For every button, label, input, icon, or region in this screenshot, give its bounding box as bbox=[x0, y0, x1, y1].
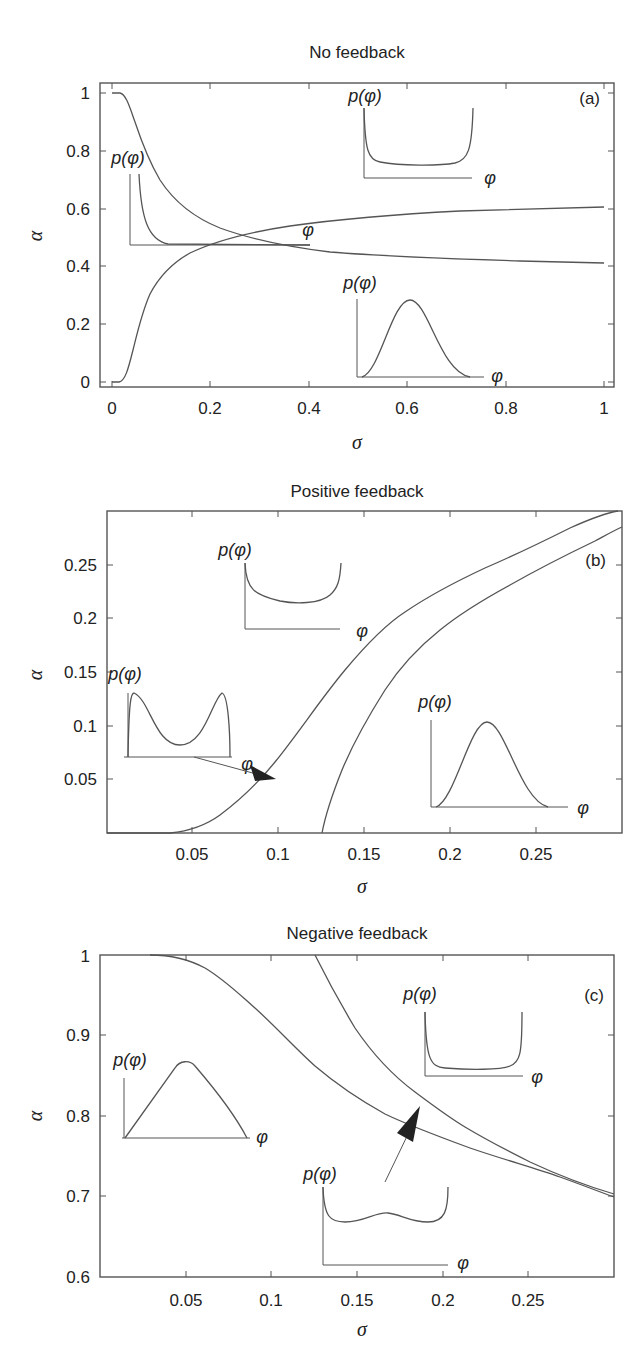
panel-b-ticks bbox=[107, 511, 622, 833]
panel-b-inset-u: p(φ) φ bbox=[217, 540, 368, 641]
panel-c-ylabel: α bbox=[24, 1110, 46, 1121]
panel-a-xlabel: σ bbox=[352, 431, 363, 453]
panel-b-right-curve bbox=[322, 527, 622, 833]
panel-c-inset-u: p(φ) φ bbox=[402, 984, 543, 1087]
panel-c-lower-curve bbox=[150, 955, 614, 1197]
panel-c-title: Negative feedback bbox=[287, 924, 428, 943]
svg-text:1: 1 bbox=[81, 84, 90, 103]
svg-text:0.6: 0.6 bbox=[395, 399, 419, 418]
panel-b-arrowhead-icon bbox=[250, 765, 276, 781]
panel-c-xlabel: σ bbox=[357, 1318, 368, 1340]
svg-text:φ: φ bbox=[491, 366, 503, 386]
panel-c-y-tick-labels: 0.6 0.7 0.8 0.9 1 bbox=[66, 947, 90, 1287]
panel-a-x-tick-labels: 0 0.2 0.4 0.6 0.8 1 bbox=[107, 399, 608, 418]
svg-text:p(φ): p(φ) bbox=[342, 273, 377, 293]
svg-text:0.8: 0.8 bbox=[494, 399, 518, 418]
svg-text:0.05: 0.05 bbox=[175, 845, 208, 864]
panel-a-inset-peak: p(φ) φ bbox=[342, 273, 503, 386]
svg-text:0: 0 bbox=[81, 373, 90, 392]
svg-text:1: 1 bbox=[81, 947, 90, 966]
panel-b-left-curve bbox=[107, 511, 618, 833]
panel-a-lower-curve bbox=[112, 207, 604, 382]
svg-text:0.8: 0.8 bbox=[66, 142, 90, 161]
panel-c-inset-trimodal: p(φ) φ bbox=[302, 1106, 469, 1273]
panel-a-upper-curve bbox=[112, 93, 604, 263]
svg-text:0.1: 0.1 bbox=[266, 845, 290, 864]
svg-text:φ: φ bbox=[457, 1253, 469, 1273]
svg-text:0.25: 0.25 bbox=[64, 556, 97, 575]
panel-a: No feedback 0 0.2 0.4 0.6 0.8 1 bbox=[24, 43, 614, 453]
svg-text:0.1: 0.1 bbox=[73, 717, 97, 736]
panel-c-ticks bbox=[100, 955, 614, 1277]
panel-c-tag: (c) bbox=[584, 986, 604, 1005]
svg-text:p(φ): p(φ) bbox=[110, 148, 145, 168]
panel-b-inset-peak: p(φ) φ bbox=[417, 692, 589, 818]
svg-text:p(φ): p(φ) bbox=[112, 1050, 147, 1070]
svg-text:p(φ): p(φ) bbox=[417, 692, 452, 712]
panel-a-inset-u: p(φ) φ bbox=[347, 86, 496, 188]
svg-text:φ: φ bbox=[256, 1127, 268, 1147]
svg-text:0: 0 bbox=[107, 399, 116, 418]
panel-a-ylabel: α bbox=[24, 230, 46, 241]
svg-text:p(φ): p(φ) bbox=[217, 540, 252, 560]
svg-text:0.25: 0.25 bbox=[519, 845, 552, 864]
svg-text:0.8: 0.8 bbox=[66, 1107, 90, 1126]
panel-b-tag: (b) bbox=[585, 551, 606, 570]
svg-text:p(φ): p(φ) bbox=[402, 984, 437, 1004]
panel-c-inset-peak: p(φ) φ bbox=[112, 1050, 268, 1147]
svg-text:0.2: 0.2 bbox=[438, 845, 462, 864]
svg-text:0.9: 0.9 bbox=[66, 1026, 90, 1045]
svg-text:0.05: 0.05 bbox=[169, 1291, 202, 1310]
svg-text:0.1: 0.1 bbox=[259, 1291, 283, 1310]
figure-canvas: No feedback 0 0.2 0.4 0.6 0.8 1 bbox=[0, 0, 641, 1356]
svg-text:0.6: 0.6 bbox=[66, 200, 90, 219]
panel-b-frame bbox=[107, 511, 622, 833]
panel-a-title: No feedback bbox=[309, 43, 405, 62]
panel-b-inset-bimodal: p(φ) φ bbox=[107, 664, 276, 781]
svg-text:0.05: 0.05 bbox=[64, 770, 97, 789]
panel-a-y-tick-labels: 0 0.2 0.4 0.6 0.8 1 bbox=[66, 84, 90, 392]
svg-text:0.15: 0.15 bbox=[340, 1291, 373, 1310]
panel-c-x-tick-labels: 0.05 0.1 0.15 0.2 0.25 bbox=[169, 1291, 544, 1310]
svg-text:φ: φ bbox=[577, 798, 589, 818]
svg-text:φ: φ bbox=[484, 168, 496, 188]
svg-text:0.15: 0.15 bbox=[347, 845, 380, 864]
svg-text:0.4: 0.4 bbox=[297, 399, 321, 418]
panel-c-arrowhead-icon bbox=[397, 1106, 420, 1142]
svg-text:φ: φ bbox=[531, 1067, 543, 1087]
panel-b-xlabel: σ bbox=[357, 875, 368, 897]
svg-text:0.25: 0.25 bbox=[511, 1291, 544, 1310]
panel-b: Positive feedback 0.05 0.1 0.15 0.2 0.25… bbox=[24, 482, 622, 897]
panel-b-y-tick-labels: 0.05 0.1 0.15 0.2 0.25 bbox=[64, 556, 97, 789]
svg-text:0.6: 0.6 bbox=[66, 1268, 90, 1287]
panel-c: Negative feedback 0.6 0.7 0.8 0.9 1 0.05… bbox=[24, 924, 614, 1340]
panel-b-ylabel: α bbox=[24, 669, 46, 680]
svg-text:0.2: 0.2 bbox=[73, 609, 97, 628]
svg-text:p(φ): p(φ) bbox=[302, 1164, 337, 1184]
svg-text:p(φ): p(φ) bbox=[107, 664, 142, 684]
svg-text:0.2: 0.2 bbox=[198, 399, 222, 418]
svg-text:0.7: 0.7 bbox=[66, 1187, 90, 1206]
svg-text:0.2: 0.2 bbox=[431, 1291, 455, 1310]
panel-c-upper-curve bbox=[315, 955, 614, 1194]
svg-text:0.4: 0.4 bbox=[66, 257, 90, 276]
panel-b-title: Positive feedback bbox=[290, 482, 424, 501]
svg-text:0.15: 0.15 bbox=[64, 663, 97, 682]
svg-text:0.2: 0.2 bbox=[66, 315, 90, 334]
panel-a-tag: (a) bbox=[579, 89, 600, 108]
panel-b-x-tick-labels: 0.05 0.1 0.15 0.2 0.25 bbox=[175, 845, 552, 864]
panel-a-inset-decay: p(φ) φ bbox=[110, 148, 314, 245]
svg-text:φ: φ bbox=[356, 621, 368, 641]
panel-c-frame bbox=[100, 955, 614, 1277]
svg-text:1: 1 bbox=[599, 399, 608, 418]
svg-text:p(φ): p(φ) bbox=[347, 86, 382, 106]
svg-text:φ: φ bbox=[302, 220, 314, 240]
